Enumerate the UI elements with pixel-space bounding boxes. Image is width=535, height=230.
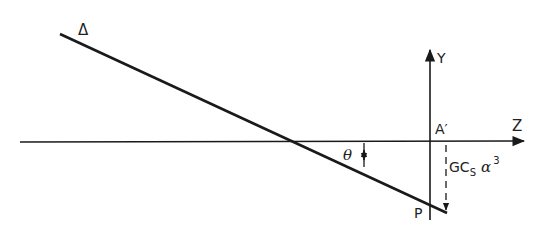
a-prime-label: A′ [435, 121, 448, 137]
z-axis-line [20, 141, 524, 142]
point-p-label: P [414, 205, 422, 221]
theta-label: θ [343, 146, 352, 164]
delta-label: Δ [78, 21, 89, 39]
diagram-canvas: Δ Y Z A′ θ P GCSα3 [0, 0, 535, 230]
displacement-superscript: 3 [493, 155, 499, 166]
delta-line [60, 34, 447, 213]
y-axis-label: Y [436, 50, 446, 66]
displacement-label: GCSα3 [449, 155, 500, 178]
displacement-subscript: S [470, 167, 476, 178]
z-axis-label: Z [512, 117, 522, 135]
displacement-main: GC [449, 159, 470, 175]
displacement-alpha: α [481, 158, 491, 176]
